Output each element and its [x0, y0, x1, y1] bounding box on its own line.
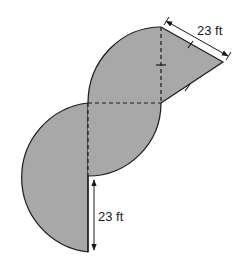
- isosceles-triangle: [161, 27, 223, 103]
- composite-figure: 23 ft 23 ft: [0, 0, 244, 268]
- bottom-semicircle: [22, 103, 88, 252]
- top-quarter-circle: [88, 27, 161, 103]
- middle-quarter-circle: [88, 103, 161, 176]
- bottom-dimension-label: 23 ft: [98, 209, 124, 224]
- top-dimension-label: 23 ft: [197, 23, 223, 38]
